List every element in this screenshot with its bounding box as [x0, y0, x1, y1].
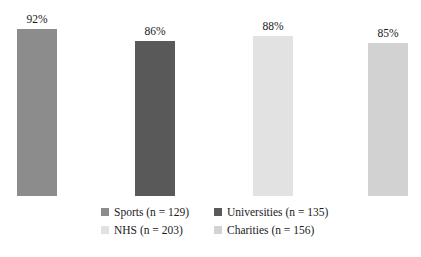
legend-label-charities: Charities (n = 156): [227, 223, 314, 237]
legend-swatch-nhs: [101, 226, 109, 234]
bar-group-universities: 86%: [135, 41, 175, 196]
legend-item-universities[interactable]: Universities (n = 135): [214, 205, 353, 219]
bar-value-label-nhs: 88%: [262, 20, 283, 33]
legend-item-sports[interactable]: Sports (n = 129): [101, 205, 214, 219]
legend-item-charities[interactable]: Charities (n = 156): [214, 223, 353, 237]
bar-universities[interactable]: [135, 41, 175, 196]
legend-label-universities: Universities (n = 135): [227, 205, 328, 219]
legend-swatch-charities: [214, 226, 222, 234]
legend-swatch-universities: [214, 208, 222, 216]
legend-label-nhs: NHS (n = 203): [114, 223, 183, 237]
bar-group-sports: 92%: [17, 29, 57, 196]
legend-label-sports: Sports (n = 129): [114, 205, 189, 219]
bar-group-nhs: 88%: [253, 36, 293, 196]
bar-sports[interactable]: [17, 29, 57, 196]
bar-value-label-charities: 85%: [377, 27, 398, 40]
bar-charities[interactable]: [368, 43, 408, 196]
bar-value-label-universities: 86%: [144, 25, 165, 38]
bar-nhs[interactable]: [253, 36, 293, 196]
legend-swatch-sports: [101, 208, 109, 216]
legend-item-nhs[interactable]: NHS (n = 203): [101, 223, 214, 237]
bar-group-charities: 85%: [368, 43, 408, 196]
bar-value-label-sports: 92%: [26, 13, 47, 26]
chart-legend: Sports (n = 129) Universities (n = 135) …: [101, 203, 353, 239]
bar-chart: 92% 86% 88% 85% Sports (n = 129) Univers…: [0, 0, 421, 257]
plot-area: 92% 86% 88% 85%: [0, 0, 421, 196]
